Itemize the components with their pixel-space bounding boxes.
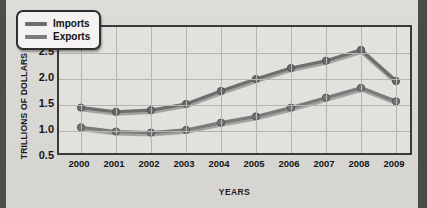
legend-item-exports: Exports xyxy=(25,30,90,43)
chart-legend: Imports Exports xyxy=(16,10,101,50)
chart-figure: TRILLIONS OF DOLLARS 0.51.01.52.02.53.0 … xyxy=(0,0,427,208)
legend-item-imports: Imports xyxy=(25,17,90,30)
x-axis-ticks: 2000200120022003200420052006200720082009 xyxy=(57,25,412,55)
legend-swatch-exports xyxy=(25,35,47,39)
y-tick-label: 1.5 xyxy=(4,97,54,109)
x-tick-label: 2005 xyxy=(243,158,264,169)
gridline-horizontal xyxy=(59,105,410,106)
x-tick-label: 2003 xyxy=(173,158,194,169)
x-tick-label: 2004 xyxy=(208,158,229,169)
legend-label-exports: Exports xyxy=(53,31,90,42)
x-tick-label: 2002 xyxy=(138,158,159,169)
y-tick-label: 1.0 xyxy=(4,123,54,135)
x-tick-label: 2007 xyxy=(313,158,334,169)
x-tick-label: 2009 xyxy=(383,158,404,169)
x-tick-label: 2000 xyxy=(68,158,89,169)
x-tick-label: 2001 xyxy=(103,158,124,169)
x-tick-label: 2006 xyxy=(278,158,299,169)
series-line-shadow xyxy=(82,51,397,113)
y-tick-label: 0.5 xyxy=(4,149,54,161)
page-right-margin xyxy=(418,0,427,208)
series-line-imports xyxy=(81,50,396,112)
legend-swatch-imports xyxy=(25,22,47,26)
gridline-horizontal xyxy=(59,79,410,80)
gridline-horizontal xyxy=(59,131,410,132)
x-axis-title: YEARS xyxy=(57,187,412,197)
y-tick-label: 2.0 xyxy=(4,71,54,83)
legend-label-imports: Imports xyxy=(53,18,90,29)
x-tick-label: 2008 xyxy=(348,158,369,169)
